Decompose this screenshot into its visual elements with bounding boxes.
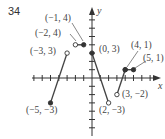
label-point-m5-m3: (−5, −3): [26, 105, 57, 116]
closed-point: [82, 43, 86, 47]
open-point: [65, 51, 69, 55]
y-axis-arrow-icon: [89, 7, 95, 15]
axes: [32, 7, 161, 136]
x-axis-label: x: [157, 80, 163, 91]
closed-point: [131, 68, 135, 72]
label-point-m2-4: (−2, 4): [35, 28, 61, 39]
label-point-m1-4: (−1, 4): [45, 13, 71, 24]
closed-point: [90, 51, 94, 55]
leader-line-m2-4: [70, 34, 76, 41]
open-point: [115, 92, 119, 96]
label-point-3-m2: (3, −2): [122, 89, 148, 100]
label-point-4-1: (4, 1): [131, 40, 152, 51]
label-point-0-3: (0, 3): [99, 44, 120, 55]
function-graph: x y (−1, 4) (−2, 4) (−3, 3) (0, 3) (4, 1…: [0, 0, 165, 139]
label-point-5-1: (5, 1): [143, 53, 164, 64]
closed-point: [123, 68, 127, 72]
open-point: [73, 43, 77, 47]
label-point-m3-3: (−3, 3): [30, 46, 56, 57]
leader-line-4-1: [127, 51, 138, 67]
label-point-2-m3: (2, −3): [99, 105, 125, 116]
y-axis-label: y: [96, 5, 102, 16]
